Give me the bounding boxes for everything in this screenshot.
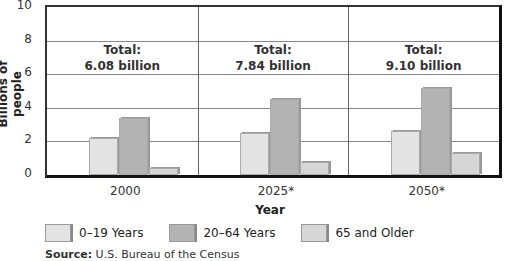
bar-2050-2 [451, 153, 480, 175]
group-separator [198, 7, 199, 175]
gridline [47, 74, 499, 75]
plot-area: Total:6.08 billionTotal:7.84 billionTota… [45, 5, 502, 178]
source-note: Source: U.S. Bureau of the Census [45, 248, 239, 261]
legend-item: 0–19 Years [45, 224, 143, 242]
x-tick: 2000 [95, 184, 155, 198]
x-tick: 2025* [246, 184, 306, 198]
y-tick: 8 [14, 32, 32, 46]
total-annotation: Total:9.10 billion [348, 42, 499, 74]
x-tick: 2050* [397, 184, 457, 198]
source-label: Source: [45, 248, 92, 261]
legend-label: 0–19 Years [79, 226, 143, 240]
bar-2000-2 [149, 168, 178, 175]
legend-swatch [301, 224, 327, 242]
legend-label: 65 and Older [335, 226, 413, 240]
bar-2025-0 [240, 133, 269, 175]
group-separator [348, 7, 349, 175]
total-annotation: Total:6.08 billion [47, 42, 198, 74]
bar-2025-1 [270, 99, 299, 175]
bar-2050-0 [391, 131, 420, 175]
legend-swatch [45, 224, 71, 242]
bar-2000-0 [89, 138, 118, 175]
y-axis-label: Billions of people [0, 44, 24, 144]
bar-2000-1 [119, 118, 148, 175]
y-tick: 0 [14, 166, 32, 180]
legend-swatch [169, 224, 195, 242]
total-annotation: Total:7.84 billion [198, 42, 349, 74]
legend: 0–19 Years20–64 Years65 and Older [45, 224, 440, 242]
y-tick: 4 [14, 99, 32, 113]
legend-item: 20–64 Years [169, 224, 275, 242]
legend-label: 20–64 Years [203, 226, 275, 240]
y-tick: 10 [14, 0, 32, 12]
source-text: U.S. Bureau of the Census [92, 248, 239, 261]
bar-2025-2 [300, 162, 329, 175]
x-axis-label: Year [240, 203, 300, 217]
y-tick: 6 [14, 65, 32, 79]
legend-item: 65 and Older [301, 224, 413, 242]
y-tick: 2 [14, 132, 32, 146]
bar-2050-1 [421, 88, 450, 175]
